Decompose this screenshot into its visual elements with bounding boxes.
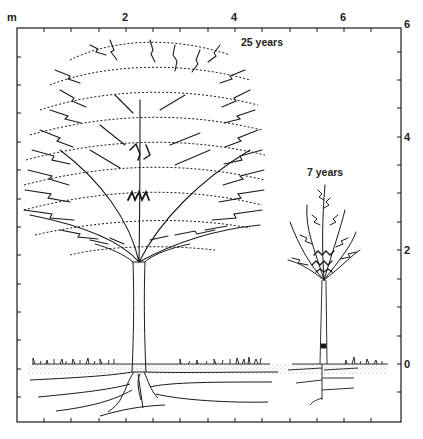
small-tree-trunk <box>320 280 327 364</box>
y-tick-label-2: 2 <box>404 245 410 256</box>
tree-age-label-7: 7 years <box>307 167 343 178</box>
x-tick-label-6: 6 <box>340 12 346 23</box>
big-tree-roots <box>30 372 278 416</box>
big-tree-trunk <box>95 244 190 372</box>
big-tree-canopy <box>24 40 264 262</box>
y-tick-label-0: 0 <box>404 359 410 370</box>
small-tree-canopy <box>288 185 360 280</box>
y-tick-label-4: 4 <box>404 132 410 143</box>
y-tick-label-6: 6 <box>404 19 410 30</box>
tree-age-label-25: 25 years <box>241 37 283 48</box>
tree-growth-diagram: m 2 4 6 6 4 2 0 25 years 7 years <box>0 0 423 439</box>
unit-label: m <box>7 12 17 23</box>
big-tree-foliage-texture <box>24 42 265 255</box>
x-tick-label-4: 4 <box>231 12 237 23</box>
grass <box>33 357 382 364</box>
x-tick-label-2: 2 <box>122 12 128 23</box>
